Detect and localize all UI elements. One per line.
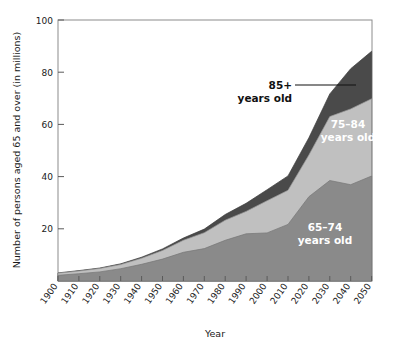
area-chart-svg: 100 80 60 40 20 1900 bbox=[0, 0, 393, 345]
callout-85-plus-line2: years old bbox=[238, 92, 292, 104]
chart-figure: 100 80 60 40 20 1900 bbox=[0, 0, 393, 345]
band-label-75-84-line2: years old bbox=[321, 131, 375, 143]
y-tick-label: 60 bbox=[42, 120, 54, 130]
y-tick-label: 80 bbox=[42, 68, 54, 78]
band-label-75-84-line1: 75–84 bbox=[331, 118, 365, 130]
band-label-65-74-line1: 65–74 bbox=[308, 221, 342, 233]
x-axis-title: Year bbox=[204, 328, 225, 339]
y-tick-label: 40 bbox=[42, 172, 54, 182]
y-axis-title: Number of persons aged 65 and over (in m… bbox=[11, 32, 22, 269]
band-label-65-74-line2: years old bbox=[298, 234, 352, 246]
callout-85-plus-line1: 85+ bbox=[269, 79, 292, 91]
y-tick-label: 100 bbox=[36, 16, 53, 26]
y-tick-label: 20 bbox=[42, 224, 54, 234]
